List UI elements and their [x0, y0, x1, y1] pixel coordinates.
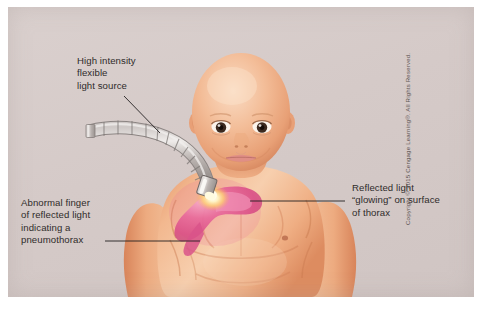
nostril-right	[244, 145, 247, 147]
probe-proximal-end	[86, 125, 95, 138]
callout-light-source: High intensity flexible light source	[77, 55, 136, 92]
callout-reflected-light: Reflected light “glowing” on surface of …	[352, 182, 440, 219]
nostril-left	[235, 145, 238, 147]
copyright-notice: Copyright © 2015 Cengage Learning®. All …	[404, 65, 411, 225]
infant-figure	[124, 53, 356, 297]
callout-abnormal-finger: Abnormal finger of reflected light indic…	[21, 197, 90, 247]
forehead-highlight	[207, 67, 257, 105]
nipple-right	[282, 236, 288, 241]
figure-root: High intensity flexible light source Abn…	[0, 0, 483, 309]
